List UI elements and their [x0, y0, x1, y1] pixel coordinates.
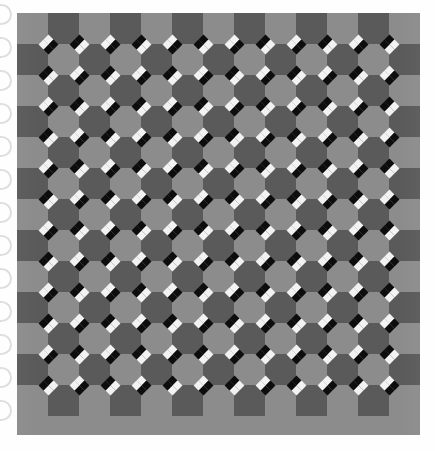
diamond-cluster: [102, 284, 119, 301]
diamond-cluster: [257, 67, 274, 84]
diamond-cluster: [133, 36, 150, 53]
diamond-cluster: [133, 315, 150, 332]
diamond-cluster: [133, 98, 150, 115]
diamond-cluster: [71, 191, 88, 208]
diamond-cluster: [133, 129, 150, 146]
diamond-cluster: [288, 191, 305, 208]
diamond-cluster: [288, 315, 305, 332]
diamond-cluster: [350, 253, 367, 270]
diamond-cluster: [381, 222, 398, 239]
diamond-cluster: [40, 315, 57, 332]
diamond-cluster: [319, 36, 336, 53]
diamond-cluster: [226, 160, 243, 177]
diamond-cluster: [133, 284, 150, 301]
diamond-cluster: [381, 377, 398, 394]
diamond-cluster: [195, 191, 212, 208]
diamond-cluster: [133, 253, 150, 270]
diamond-cluster: [102, 377, 119, 394]
diamond-cluster: [102, 129, 119, 146]
diamond-cluster: [226, 67, 243, 84]
binding-hole: [0, 169, 12, 190]
diamond-cluster: [164, 191, 181, 208]
diamond-cluster: [71, 36, 88, 53]
diamond-cluster: [288, 346, 305, 363]
diamond-cluster: [381, 284, 398, 301]
binding-hole: [0, 235, 12, 256]
diamond-cluster: [164, 284, 181, 301]
diamond-cluster: [164, 315, 181, 332]
diamond-cluster: [350, 346, 367, 363]
binding-hole: [0, 70, 12, 91]
diamond-cluster: [195, 377, 212, 394]
diamond-cluster: [288, 36, 305, 53]
diamond-cluster: [226, 253, 243, 270]
diamond-cluster: [133, 346, 150, 363]
diamond-cluster: [133, 377, 150, 394]
diamond-cluster: [226, 315, 243, 332]
diamond-cluster: [133, 160, 150, 177]
diamond-cluster: [257, 98, 274, 115]
diamond-cluster: [40, 377, 57, 394]
diamond-cluster: [288, 160, 305, 177]
diamond-cluster: [133, 191, 150, 208]
binding-hole: [0, 37, 12, 58]
diamond-cluster: [40, 67, 57, 84]
diamond-cluster: [102, 222, 119, 239]
diamond-cluster: [226, 346, 243, 363]
diamond-cluster: [164, 222, 181, 239]
diamond-cluster: [195, 129, 212, 146]
diamond-cluster: [288, 98, 305, 115]
diamond-cluster: [381, 36, 398, 53]
diamond-cluster: [350, 67, 367, 84]
diamond-cluster: [319, 67, 336, 84]
diamond-cluster: [226, 36, 243, 53]
diamond-cluster: [164, 36, 181, 53]
diamond-cluster: [102, 191, 119, 208]
diamond-cluster: [350, 315, 367, 332]
diamond-cluster: [288, 129, 305, 146]
checkerboard-illusion-figure: [17, 13, 420, 435]
binding-hole: [0, 400, 12, 421]
diamond-cluster: [102, 36, 119, 53]
diamond-cluster: [226, 284, 243, 301]
checker-grid: [17, 13, 420, 435]
diamond-cluster: [288, 377, 305, 394]
diamond-cluster: [288, 284, 305, 301]
diamond-cluster: [350, 98, 367, 115]
diamond-cluster: [350, 284, 367, 301]
diamond-cluster: [381, 346, 398, 363]
diamond-cluster: [288, 253, 305, 270]
diamond-cluster: [350, 377, 367, 394]
diamond-cluster: [40, 284, 57, 301]
diamond-cluster: [226, 129, 243, 146]
diamond-cluster: [319, 346, 336, 363]
diamond-cluster: [195, 253, 212, 270]
diamond-cluster: [226, 377, 243, 394]
diamond-cluster: [71, 377, 88, 394]
diamond-cluster: [257, 346, 274, 363]
diamond-cluster: [102, 160, 119, 177]
diamond-cluster: [381, 160, 398, 177]
diamond-cluster: [381, 67, 398, 84]
diamond-cluster: [40, 36, 57, 53]
diamond-cluster: [40, 191, 57, 208]
diamond-cluster: [257, 36, 274, 53]
diamond-cluster: [350, 129, 367, 146]
diamond-cluster: [319, 160, 336, 177]
diamond-cluster: [133, 67, 150, 84]
diamond-cluster: [71, 222, 88, 239]
spiral-binding: [0, 0, 14, 451]
diamond-cluster: [40, 98, 57, 115]
diamond-cluster: [195, 315, 212, 332]
diamond-cluster: [40, 160, 57, 177]
diamond-cluster: [164, 377, 181, 394]
diamond-cluster: [319, 191, 336, 208]
diamond-cluster: [257, 129, 274, 146]
diamond-cluster: [226, 98, 243, 115]
diamond-cluster: [195, 222, 212, 239]
diamond-cluster: [195, 67, 212, 84]
diamond-cluster: [381, 253, 398, 270]
diamond-cluster: [319, 98, 336, 115]
diamond-cluster: [195, 160, 212, 177]
binding-hole: [0, 334, 12, 355]
